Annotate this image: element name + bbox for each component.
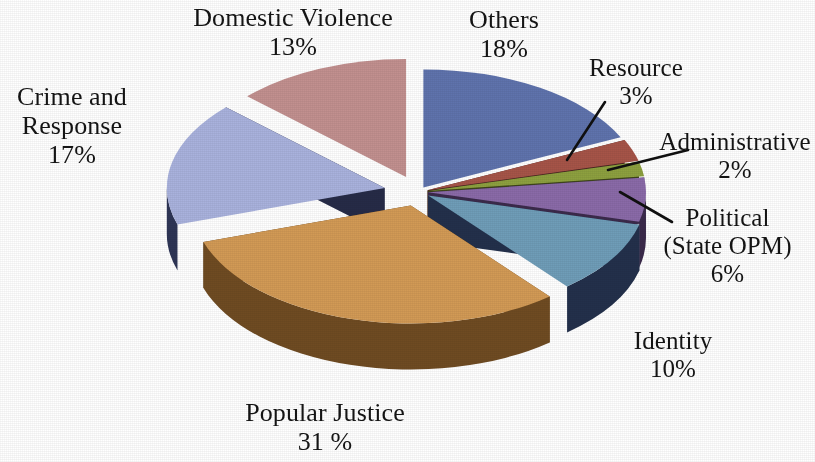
- slice-label-name: Resource: [570, 54, 702, 82]
- slice-label-name: Domestic Violence: [183, 3, 403, 32]
- slice-label-percent: 31 %: [175, 427, 475, 456]
- slice-label-name: Identity: [603, 327, 743, 355]
- slice-label-political-state-opm: Political (State OPM) 6%: [640, 204, 815, 288]
- slice-label-resource: Resource 3%: [570, 54, 702, 110]
- slice-label-percent: 10%: [603, 355, 743, 383]
- slice-label-name: Popular Justice: [175, 398, 475, 427]
- slice-label-name-line2: (State OPM): [640, 232, 815, 260]
- slice-label-percent: 3%: [570, 82, 702, 110]
- slice-label-domestic-violence: Domestic Violence 13%: [183, 3, 403, 61]
- slice-label-name: Administrative: [655, 128, 815, 156]
- slice-label-name: Others: [440, 5, 568, 34]
- slice-label-percent: 6%: [640, 260, 815, 288]
- slice-label-name-line2: Response: [2, 111, 142, 140]
- slice-label-percent: 13%: [183, 32, 403, 61]
- slice-label-others: Others 18%: [440, 5, 568, 63]
- slice-label-popular-justice: Popular Justice 31 %: [175, 398, 475, 456]
- chart-canvas: Domestic Violence 13% Crime and Response…: [0, 0, 815, 462]
- slice-label-name-line1: Crime and: [2, 82, 142, 111]
- slice-label-name-line1: Political: [640, 204, 815, 232]
- slice-label-percent: 2%: [655, 156, 815, 184]
- slice-label-percent: 17%: [2, 140, 142, 169]
- slice-label-crime-and-response: Crime and Response 17%: [2, 82, 142, 169]
- slice-label-percent: 18%: [440, 34, 568, 63]
- slice-label-administrative: Administrative 2%: [655, 128, 815, 184]
- slice-label-identity: Identity 10%: [603, 327, 743, 383]
